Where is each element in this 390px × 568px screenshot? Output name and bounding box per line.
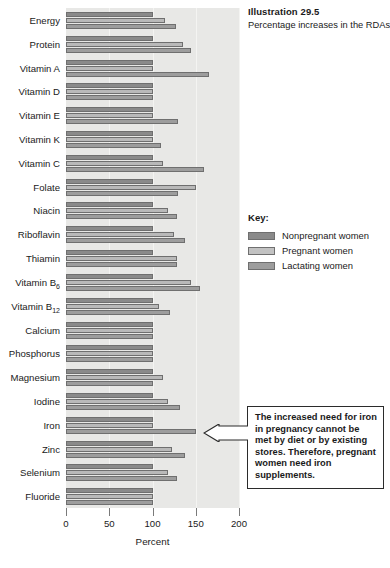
bar: [66, 357, 153, 362]
x-axis-tick: [239, 508, 240, 516]
bar: [66, 113, 153, 118]
y-axis-label: Vitamin A: [0, 63, 60, 74]
bar: [66, 208, 168, 213]
bar: [66, 274, 153, 279]
bar: [66, 304, 159, 309]
bar: [66, 250, 153, 255]
bar: [66, 399, 168, 404]
bar-group: [66, 345, 239, 363]
bar: [66, 351, 153, 356]
bar-group: [66, 488, 239, 506]
legend-swatch: [248, 247, 275, 255]
bar: [66, 488, 153, 493]
bar: [66, 202, 153, 207]
bar: [66, 334, 153, 339]
illustration-number: Illustration 29.5: [248, 6, 390, 18]
bar-group: [66, 155, 239, 173]
x-axis-tick: [109, 508, 110, 516]
bar: [66, 405, 180, 410]
legend-label: Lactating women: [282, 260, 353, 271]
bar: [66, 286, 200, 291]
bar: [66, 476, 177, 481]
y-axis-label: Vitamin K: [0, 134, 60, 145]
callout-text: The increased need for iron in pregnancy…: [255, 412, 377, 482]
bar: [66, 238, 185, 243]
bar-group: [66, 464, 239, 482]
legend-label: Nonpregnant women: [282, 230, 369, 241]
bar: [66, 322, 153, 327]
bar: [66, 36, 153, 41]
y-axis-label: Riboflavin: [0, 229, 60, 240]
bar-group: [66, 393, 239, 411]
illustration-page: Illustration 29.5 Percentage increases i…: [0, 0, 390, 568]
legend-entries: Nonpregnant womenPregnant womenLactating…: [248, 229, 388, 272]
bar: [66, 417, 153, 422]
bar: [66, 48, 191, 53]
bar-group: [66, 226, 239, 244]
bar: [66, 375, 163, 380]
legend-label: Pregnant women: [282, 245, 353, 256]
y-axis-label: Zinc: [0, 444, 60, 455]
y-axis-label: Iron: [0, 420, 60, 431]
bar: [66, 393, 153, 398]
x-axis-tick: [153, 508, 154, 516]
bar-group: [66, 369, 239, 387]
y-axis-label: Energy: [0, 15, 60, 26]
bar: [66, 137, 153, 142]
bar: [66, 42, 183, 47]
bar: [66, 500, 153, 505]
legend-entry: Lactating women: [248, 259, 388, 272]
y-axis-label: Vitamin B12: [0, 301, 60, 314]
bar: [66, 256, 177, 261]
bar: [66, 12, 153, 17]
chart-x-axis-title: Percent: [66, 536, 239, 547]
legend-swatch: [248, 262, 275, 270]
y-axis-label: Vitamin D: [0, 86, 60, 97]
bar: [66, 119, 178, 124]
bar-group: [66, 83, 239, 101]
bar: [66, 155, 153, 160]
bar: [66, 60, 153, 65]
bar-group: [66, 202, 239, 220]
bar: [66, 262, 177, 267]
bar: [66, 95, 153, 100]
y-axis-label: Folate: [0, 182, 60, 193]
iron-annotation-callout: The increased need for iron in pregnancy…: [247, 406, 384, 489]
bar-group: [66, 179, 239, 197]
bar: [66, 447, 172, 452]
bar: [66, 464, 153, 469]
bar: [66, 280, 191, 285]
chart-legend: Key: Nonpregnant womenPregnant womenLact…: [248, 212, 388, 274]
bar: [66, 232, 174, 237]
bar: [66, 179, 153, 184]
x-axis-tick: [196, 508, 197, 516]
x-axis-tick-label: 0: [46, 518, 86, 529]
bar: [66, 143, 161, 148]
bar: [66, 72, 209, 77]
bar-group: [66, 322, 239, 340]
chart-x-axis: [66, 508, 239, 517]
y-axis-label: Thiamin: [0, 253, 60, 264]
bar: [66, 441, 153, 446]
legend-entry: Nonpregnant women: [248, 229, 388, 242]
x-axis-tick: [66, 508, 67, 516]
y-axis-label: Fluoride: [0, 491, 60, 502]
bar: [66, 66, 153, 71]
bar: [66, 131, 153, 136]
bar-group: [66, 60, 239, 78]
bar: [66, 429, 196, 434]
bar-group: [66, 12, 239, 30]
y-axis-label: Selenium: [0, 467, 60, 478]
bar: [66, 185, 196, 190]
bar: [66, 470, 168, 475]
bar-group: [66, 298, 239, 316]
bar-group: [66, 441, 239, 459]
y-axis-label: Vitamin E: [0, 110, 60, 121]
illustration-title-block: Illustration 29.5 Percentage increases i…: [248, 6, 390, 31]
bar: [66, 381, 153, 386]
bar-group: [66, 107, 239, 125]
bar: [66, 310, 170, 315]
bar: [66, 298, 153, 303]
y-axis-label: Niacin: [0, 205, 60, 216]
y-axis-label: Vitamin C: [0, 158, 60, 169]
